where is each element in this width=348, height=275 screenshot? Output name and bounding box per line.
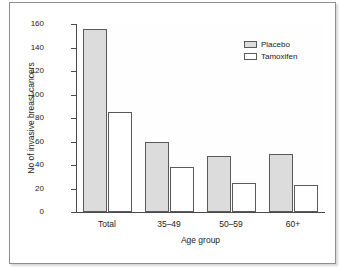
legend-label: Placebo: [261, 40, 290, 49]
y-axis-tick-label: 0: [4, 208, 44, 216]
y-axis-line: [76, 24, 77, 213]
y-axis-tick-label: 160: [4, 20, 44, 28]
y-axis-tick-label: 100: [4, 91, 44, 99]
bar-placebo-total: [83, 29, 107, 212]
y-axis-tick-label: 40: [4, 161, 44, 169]
legend-swatch-icon: [244, 53, 257, 60]
y-axis-tick: [71, 48, 76, 49]
bar-placebo-50-59: [207, 156, 231, 212]
bar-tamoxifen-35-49: [170, 167, 194, 212]
y-axis-title: No of invasive breast cancers: [26, 33, 36, 203]
bar-placebo-35-49: [145, 142, 169, 213]
y-axis-tick-label: 140: [4, 44, 44, 52]
legend-item-placebo: Placebo: [244, 39, 322, 50]
bar-placebo-60-: [269, 154, 293, 212]
y-axis-tick-label: 120: [4, 67, 44, 75]
figure-frame: 020406080100120140160 Total35–4950–5960+…: [9, 2, 336, 264]
legend-swatch-icon: [244, 41, 257, 48]
x-axis-category-label: 60+: [262, 219, 324, 229]
x-axis-category-label: 50–59: [200, 219, 262, 229]
bar-tamoxifen-total: [108, 112, 132, 212]
bar-tamoxifen-60-: [294, 185, 318, 212]
y-axis-tick: [71, 142, 76, 143]
legend-label: Tamoxifen: [261, 52, 297, 61]
y-axis-tick-label: 60: [4, 138, 44, 146]
y-axis-tick: [71, 118, 76, 119]
x-axis-title: Age group: [76, 235, 325, 245]
y-axis-tick: [71, 71, 76, 72]
y-axis-tick: [71, 212, 76, 213]
legend-item-tamoxifen: Tamoxifen: [244, 51, 322, 62]
x-axis-category-label: 35–49: [138, 219, 200, 229]
chart-legend: Placebo Tamoxifen: [244, 39, 322, 63]
y-axis-tick: [71, 95, 76, 96]
x-axis-category-label: Total: [76, 219, 138, 229]
y-axis-tick: [71, 165, 76, 166]
y-axis-tick: [71, 189, 76, 190]
bar-tamoxifen-50-59: [232, 183, 256, 212]
y-axis-tick: [71, 24, 76, 25]
figure-container: 020406080100120140160 Total35–4950–5960+…: [0, 0, 348, 275]
y-axis-tick-label: 80: [4, 114, 44, 122]
x-axis-line: [76, 212, 325, 213]
y-axis-tick-label: 20: [4, 185, 44, 193]
